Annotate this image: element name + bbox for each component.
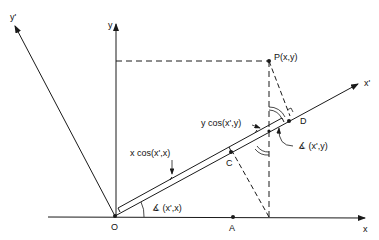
point-c bbox=[229, 150, 233, 154]
label-y: y bbox=[108, 20, 113, 30]
label-y-prime: y' bbox=[10, 12, 17, 22]
point-p bbox=[267, 59, 271, 63]
projection-diagram: y' y x' x P(x,y) O A C D x cos(x',x) y c… bbox=[0, 0, 379, 240]
label-angle-y: ∡ (x',y) bbox=[298, 141, 328, 151]
label-x: x bbox=[363, 224, 368, 234]
angle-arc-x-prime-x bbox=[141, 202, 144, 217]
dashed-p-to-d bbox=[269, 61, 290, 116]
label-x-cos: x cos(x',x) bbox=[130, 148, 170, 158]
label-d: D bbox=[300, 116, 307, 126]
angle-arc-lower bbox=[257, 146, 269, 152]
leader-angle-y bbox=[279, 128, 293, 146]
point-a bbox=[231, 215, 235, 219]
diagram-canvas: y' y x' x P(x,y) O A C D x cos(x',x) y c… bbox=[0, 0, 379, 240]
x-axis bbox=[48, 217, 365, 218]
y-prime-axis bbox=[15, 26, 115, 216]
label-c: C bbox=[226, 158, 233, 168]
label-origin: O bbox=[111, 222, 118, 232]
label-p: P(x,y) bbox=[274, 52, 298, 62]
point-d bbox=[287, 119, 291, 123]
label-angle-x: ∡ (x',x) bbox=[152, 203, 182, 213]
angle-arc-x-prime-y bbox=[269, 110, 282, 119]
point-origin bbox=[113, 214, 117, 218]
label-y-cos: y cos(x',y) bbox=[201, 118, 241, 128]
label-a: A bbox=[229, 223, 235, 233]
label-x-prime: x' bbox=[364, 78, 371, 88]
